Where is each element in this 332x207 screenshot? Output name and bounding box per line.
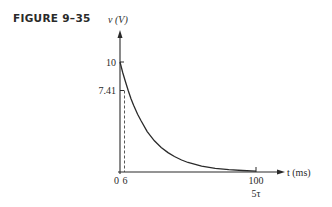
x-tick-label-5tau: 5τ: [251, 188, 260, 199]
y-axis-label: v (V): [108, 14, 128, 26]
y-axis-arrow-icon: [118, 30, 123, 38]
y-tick-label-741: 7.41: [99, 85, 117, 96]
x-tick-label-100: 100: [249, 175, 264, 186]
x-axis-label: t (ms): [287, 167, 311, 179]
x-axis-arrow-icon: [277, 170, 285, 175]
x-tick-label-0: 0: [114, 175, 119, 186]
x-tick-label-6: 6: [123, 175, 128, 186]
y-tick-label-10: 10: [106, 57, 116, 68]
decay-curve: [120, 62, 256, 171]
decay-chart: v (V) t (ms) 10 7.41 0 6 100 5τ: [0, 0, 332, 207]
